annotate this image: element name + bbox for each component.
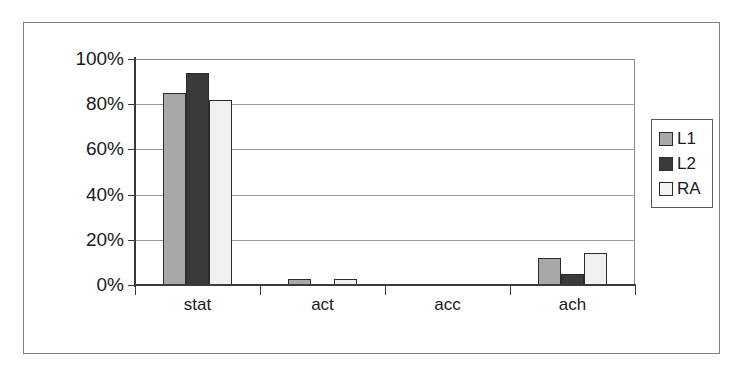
x-axis-category-label: ach bbox=[559, 296, 586, 313]
y-axis-tick bbox=[128, 59, 135, 60]
x-axis-tick bbox=[635, 286, 636, 295]
gridline bbox=[135, 59, 635, 60]
y-axis-tick-label: 60% bbox=[28, 139, 124, 158]
y-axis-tick-label: 0% bbox=[28, 275, 124, 294]
y-axis-tick bbox=[128, 285, 135, 286]
legend-label: RA bbox=[677, 180, 701, 197]
x-axis-category-label: stat bbox=[184, 296, 211, 313]
y-axis-line bbox=[134, 57, 136, 287]
y-axis-tick bbox=[128, 240, 135, 241]
x-axis-category-label: acc bbox=[434, 296, 460, 313]
y-axis-tick-label: 100% bbox=[28, 49, 124, 68]
legend-item-L2: L2 bbox=[659, 151, 706, 176]
x-axis-tick bbox=[385, 286, 386, 295]
legend-label: L1 bbox=[677, 130, 696, 147]
bar-stat-L1 bbox=[163, 93, 186, 285]
legend-label: L2 bbox=[677, 155, 696, 172]
bar-ach-L1 bbox=[538, 258, 561, 285]
y-axis-tick-labels: 100%80%60%40%20%0% bbox=[24, 23, 124, 353]
y-axis-tick-label: 40% bbox=[28, 185, 124, 204]
chart-figure: 100%80%60%40%20%0% L1L2RA statactaccach bbox=[23, 22, 720, 354]
y-axis-tick bbox=[128, 104, 135, 105]
bar-stat-L2 bbox=[186, 73, 209, 285]
x-axis-category-label: act bbox=[311, 296, 334, 313]
y-axis-tick-label: 80% bbox=[28, 94, 124, 113]
bar-stat-RA bbox=[209, 100, 232, 285]
legend-swatch-icon bbox=[659, 182, 673, 196]
x-axis-tick bbox=[135, 286, 136, 295]
chart-legend: L1L2RA bbox=[651, 119, 713, 208]
x-axis-tick bbox=[260, 286, 261, 295]
legend-swatch-icon bbox=[659, 157, 673, 171]
legend-item-L1: L1 bbox=[659, 126, 706, 151]
plot-right-edge bbox=[634, 59, 635, 285]
y-axis-tick-label: 20% bbox=[28, 230, 124, 249]
x-axis-tick bbox=[510, 286, 511, 295]
legend-swatch-icon bbox=[659, 132, 673, 146]
y-axis-tick bbox=[128, 149, 135, 150]
bar-ach-RA bbox=[584, 253, 607, 285]
y-axis-tick bbox=[128, 195, 135, 196]
legend-item-RA: RA bbox=[659, 176, 706, 201]
plot-area bbox=[135, 59, 635, 285]
